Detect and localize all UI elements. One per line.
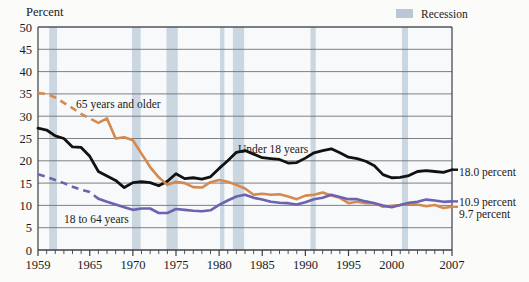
xtick-label-1965: 1965 <box>77 258 102 272</box>
ytick-label-15: 15 <box>20 177 33 191</box>
xtick-label-2000: 2000 <box>379 258 404 272</box>
ytick-label-10: 10 <box>20 199 33 213</box>
end-label-under-18: 18.0 percent <box>459 166 517 179</box>
series-label-65-and-older: 65 years and older <box>76 98 161 111</box>
xtick-label-1990: 1990 <box>293 258 318 272</box>
ytick-label-40: 40 <box>20 65 33 79</box>
xtick-label-1980: 1980 <box>207 258 232 272</box>
series-label-18-to-64: 18 to 64 years <box>64 213 129 226</box>
ytick-label-35: 35 <box>20 87 33 101</box>
ytick-label-45: 45 <box>20 43 33 57</box>
ytick-label-20: 20 <box>20 154 33 168</box>
ytick-label-30: 30 <box>20 110 33 124</box>
ytick-label-5: 5 <box>26 221 32 235</box>
recession-swatch <box>396 9 413 18</box>
y-axis-title: Percent <box>26 5 64 19</box>
end-label-65-and-older: 9.7 percent <box>459 208 511 221</box>
chart-canvas: 0510152025303540455019591965197019751980… <box>0 0 529 282</box>
xtick-label-1970: 1970 <box>120 258 145 272</box>
ytick-label-0: 0 <box>26 244 32 258</box>
xtick-label-1959: 1959 <box>26 258 51 272</box>
xtick-label-2007: 2007 <box>440 258 465 272</box>
ytick-label-50: 50 <box>20 21 33 35</box>
ytick-label-25: 25 <box>20 132 33 146</box>
xtick-label-1975: 1975 <box>164 258 189 272</box>
xtick-label-1995: 1995 <box>336 258 361 272</box>
xtick-label-1985: 1985 <box>250 258 275 272</box>
series-label-under-18: Under 18 years <box>238 143 309 156</box>
legend-label-recession: Recession <box>421 8 468 20</box>
poverty-rate-chart-figure: 0510152025303540455019591965197019751980… <box>0 0 529 282</box>
